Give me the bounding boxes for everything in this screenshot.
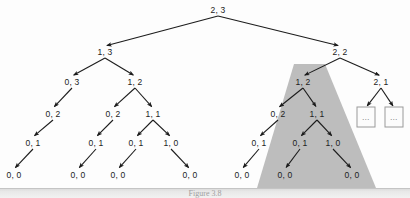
tree-edge: [340, 58, 379, 75]
figure-caption: Figure 3.8: [0, 189, 410, 198]
tree-node: 0, 1: [26, 139, 41, 148]
tree-edge: [381, 88, 393, 106]
tree-node: 1, 2: [128, 78, 143, 87]
tree-graphics: [0, 0, 410, 198]
tree-node: 0, 0: [235, 171, 250, 180]
tree-edge: [137, 120, 153, 136]
recursion-tree-figure: 2, 31, 32, 20, 31, 21, 22, 10, 20, 21, 1…: [0, 0, 410, 198]
tree-node: 0, 2: [106, 110, 121, 119]
tree-edge: [218, 16, 338, 46]
tree-edge: [107, 16, 218, 45]
tree-node: 1, 0: [164, 139, 179, 148]
tree-node: 0, 0: [71, 171, 86, 180]
ellipsis-node-box: ...: [357, 107, 376, 128]
tree-node: 0, 0: [183, 171, 198, 180]
tree-node: 0, 1: [89, 139, 104, 148]
tree-node: 1, 1: [146, 110, 161, 119]
tree-node: 0, 3: [65, 78, 80, 87]
tree-node: 1, 3: [98, 48, 113, 57]
ellipsis-node-box: ...: [385, 107, 404, 128]
tree-edge: [35, 120, 53, 136]
tree-edge: [105, 58, 133, 75]
tree-node: 0, 1: [293, 139, 308, 148]
tree-node: 1, 0: [326, 139, 341, 148]
tree-node: 0, 2: [46, 110, 61, 119]
tree-node: 2, 1: [374, 78, 389, 87]
tree-node: 2, 2: [333, 48, 348, 57]
tree-edge: [114, 88, 135, 107]
tree-node: 0, 0: [111, 171, 126, 180]
tree-node: 0, 0: [345, 171, 360, 180]
tree-node: 1, 2: [296, 78, 311, 87]
tree-edge: [135, 88, 152, 107]
tree-edge: [367, 88, 381, 106]
tree-edge: [15, 149, 33, 168]
tree-node: 2, 3: [211, 6, 226, 15]
tree-node: 1, 1: [310, 110, 325, 119]
tree-edge: [74, 58, 105, 75]
tree-edge: [243, 149, 259, 167]
tree-edge: [171, 149, 189, 168]
tree-edge: [153, 120, 170, 136]
tree-edge: [54, 88, 72, 107]
tree-edge: [119, 149, 136, 168]
tree-edge: [79, 149, 96, 168]
tree-node: 0, 1: [252, 139, 267, 148]
tree-node: 0, 1: [129, 139, 144, 148]
tree-node: 0, 0: [7, 171, 22, 180]
tree-edge: [97, 120, 113, 136]
tree-node: 0, 2: [271, 110, 286, 119]
tree-node: 0, 0: [278, 171, 293, 180]
